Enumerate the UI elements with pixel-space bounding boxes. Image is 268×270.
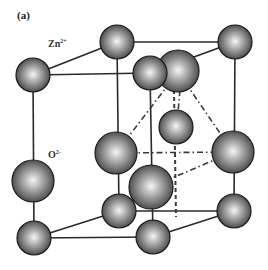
atoms — [12, 25, 254, 255]
atom-o-mid-right — [212, 131, 254, 173]
atom-zn-bottom-back-left — [102, 194, 136, 228]
atom-zn-top-front-right — [133, 56, 167, 90]
atom-zn-bottom-front-right — [136, 220, 170, 254]
atom-o-mid-left — [95, 132, 137, 174]
panel-label: (a) — [17, 9, 30, 22]
atom-zn-bottom-back-right — [217, 194, 251, 228]
zn-ion-label: Zn2+ — [48, 38, 67, 49]
atom-zn-top-front-left — [16, 58, 50, 92]
o-ion-label: O2- — [48, 149, 61, 160]
atom-o-front-left — [12, 160, 54, 202]
atom-zn-center — [159, 110, 193, 144]
atom-zn-top-back-left — [100, 25, 134, 59]
crystal-structure-diagram: (a) — [0, 0, 268, 270]
atom-zn-bottom-front-left — [17, 221, 51, 255]
atom-zn-top-back-right — [218, 25, 252, 59]
atom-o-front-center — [129, 165, 173, 209]
